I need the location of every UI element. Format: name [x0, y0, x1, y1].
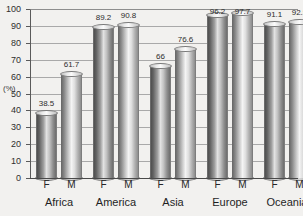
bar-oceania-m — [289, 22, 303, 178]
x-axis-labels: FMFMFMFMFMAfricaAmericaAsiaEuropeOceania — [30, 180, 298, 216]
x-group-label-oceania: Oceania — [267, 197, 303, 208]
value-label-africa-m: 61.7 — [64, 61, 80, 69]
y-tick-label-20: 20 — [0, 140, 26, 149]
x-label-africa-m: M — [67, 180, 75, 190]
bar-body — [93, 27, 114, 178]
bar-body — [289, 22, 303, 178]
bar-body — [118, 25, 139, 178]
bar-cap — [35, 110, 58, 116]
bar-asia-m — [175, 49, 196, 178]
bar-body — [207, 15, 228, 178]
y-tick-label-50: 50 — [0, 89, 26, 98]
bar-cap — [263, 21, 286, 27]
bar-body — [61, 74, 82, 178]
bar-body — [150, 66, 171, 178]
bar-chart: (%) 0102030405060708090100 38.561.789.29… — [0, 0, 303, 216]
bars-layer — [30, 9, 298, 178]
value-label-asia-f: 66 — [156, 53, 165, 61]
bar-cap — [288, 19, 303, 25]
bar-america-m — [118, 25, 139, 178]
x-label-europe-m: M — [238, 180, 246, 190]
bar-cap — [60, 71, 83, 77]
y-tick-label-90: 90 — [0, 21, 26, 30]
x-label-asia-m: M — [181, 180, 189, 190]
value-label-oceania-f: 91.1 — [267, 11, 283, 19]
x-label-oceania-m: M — [295, 180, 303, 190]
y-tick-label-0: 0 — [0, 174, 26, 183]
bar-cap — [117, 22, 140, 28]
y-tick-label-30: 30 — [0, 123, 26, 132]
plot-area: 38.561.789.290.86676.696.297.791.192.5 — [30, 9, 298, 178]
bar-body — [232, 13, 253, 178]
bar-body — [175, 49, 196, 178]
y-axis-tick-labels: 0102030405060708090100 — [0, 0, 26, 216]
y-tick-label-60: 60 — [0, 72, 26, 81]
bar-africa-f — [36, 113, 57, 178]
x-label-asia-f: F — [157, 180, 163, 190]
x-label-africa-f: F — [43, 180, 49, 190]
x-label-america-f: F — [100, 180, 106, 190]
bar-body — [264, 24, 285, 178]
value-label-america-m: 90.8 — [121, 12, 137, 20]
bar-america-f — [93, 27, 114, 178]
bar-cap — [174, 46, 197, 52]
y-tick-label-10: 10 — [0, 157, 26, 166]
value-label-oceania-m: 92.5 — [292, 9, 303, 17]
x-label-oceania-f: F — [271, 180, 277, 190]
bar-europe-f — [207, 15, 228, 178]
value-label-europe-m: 97.7 — [235, 8, 251, 16]
bar-oceania-f — [264, 24, 285, 178]
x-group-label-america: America — [96, 197, 136, 208]
y-tick-label-70: 70 — [0, 55, 26, 64]
value-label-europe-f: 96.2 — [210, 8, 226, 16]
y-tick-label-80: 80 — [0, 38, 26, 47]
value-label-america-f: 89.2 — [96, 14, 112, 22]
value-label-asia-m: 76.6 — [178, 36, 194, 44]
y-tickmark-0 — [26, 178, 30, 179]
x-group-label-asia: Asia — [162, 197, 183, 208]
x-group-label-africa: Africa — [45, 197, 73, 208]
y-tick-label-40: 40 — [0, 106, 26, 115]
value-label-africa-f: 38.5 — [39, 100, 55, 108]
bar-body — [36, 113, 57, 178]
bar-africa-m — [61, 74, 82, 178]
x-label-europe-f: F — [214, 180, 220, 190]
bar-asia-f — [150, 66, 171, 178]
x-label-america-m: M — [124, 180, 132, 190]
x-group-label-europe: Europe — [212, 197, 247, 208]
bar-europe-m — [232, 13, 253, 178]
y-tick-label-100: 100 — [0, 5, 26, 14]
